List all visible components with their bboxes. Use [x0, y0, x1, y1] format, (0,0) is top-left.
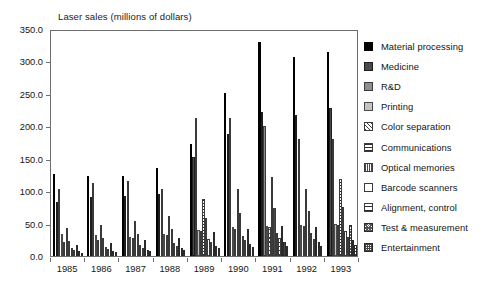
legend-item-test-measurement[interactable]: Test & measurement — [364, 218, 490, 238]
bar — [237, 189, 239, 256]
x-axis-tick-label-1987: 1987 — [125, 264, 146, 274]
bar — [142, 248, 144, 256]
legend-item-alignment-control[interactable]: Alignment, control — [364, 198, 490, 218]
bar — [127, 181, 129, 256]
bar-group-1985 — [53, 31, 83, 256]
y-axis: 0.050.0100.0150.0200.0250.0300.0350.0 — [0, 0, 50, 287]
bar — [107, 249, 109, 256]
bar — [232, 227, 234, 256]
legend-item-label: R&D — [381, 81, 401, 92]
legend-item-material-processing[interactable]: Material processing — [364, 36, 490, 56]
legend-item-label: Optical memories — [381, 162, 455, 173]
y-axis-tick-label: 350.0 — [20, 25, 43, 35]
bar — [313, 239, 315, 257]
bar — [147, 250, 149, 256]
bar-group-1986 — [87, 31, 117, 256]
bar — [276, 233, 278, 256]
bar — [78, 251, 80, 256]
legend-item-optical-memories[interactable]: Optical memories — [364, 157, 490, 177]
y-axis-tick-label: 250.0 — [20, 90, 43, 100]
legend-swatch-icon — [364, 163, 373, 172]
bar — [271, 177, 273, 256]
bar — [166, 235, 168, 256]
bar — [227, 134, 229, 256]
bar — [205, 218, 207, 256]
legend-swatch-icon — [364, 223, 373, 232]
bar — [124, 196, 126, 256]
bar — [310, 233, 312, 256]
legend: Material processingMedicineR&DPrintingCo… — [364, 36, 490, 258]
bar-group-1991 — [258, 31, 288, 256]
x-axis-tick-mark — [187, 258, 188, 262]
bar — [61, 234, 63, 256]
bar — [115, 252, 117, 256]
legend-item-barcode-scanners[interactable]: Barcode scanners — [364, 177, 490, 197]
bar — [53, 174, 55, 256]
bar — [320, 246, 322, 256]
legend-item-communications[interactable]: Communications — [364, 137, 490, 157]
bar — [202, 199, 204, 256]
bar-group-1993 — [327, 31, 357, 256]
bar — [298, 139, 300, 256]
bar — [71, 248, 73, 256]
bar — [244, 240, 246, 256]
bar — [315, 227, 317, 256]
bar — [112, 251, 114, 256]
bar — [249, 244, 251, 256]
legend-item-printing[interactable]: Printing — [364, 97, 490, 117]
bar — [110, 243, 112, 256]
bar — [293, 57, 295, 256]
x-axis-tick-mark — [290, 258, 291, 262]
legend-item-label: Color separation — [381, 121, 451, 132]
bar — [171, 229, 173, 256]
bar — [215, 246, 217, 256]
bar — [318, 242, 320, 256]
bar — [90, 197, 92, 256]
x-axis-tick-label-1989: 1989 — [194, 264, 215, 274]
bar — [181, 248, 183, 256]
bar — [137, 234, 139, 256]
bar — [339, 179, 341, 256]
bar — [242, 236, 244, 256]
legend-item-label: Entertainment — [381, 242, 440, 253]
x-axis-tick-mark — [358, 258, 359, 262]
bar — [303, 226, 305, 256]
bar — [349, 225, 351, 256]
bar-group-1989 — [190, 31, 220, 256]
bar — [92, 183, 94, 256]
y-axis-tick-label: 300.0 — [20, 57, 43, 67]
x-axis-tick-label-1988: 1988 — [159, 264, 180, 274]
bar — [102, 238, 104, 256]
bar — [161, 189, 163, 256]
bar — [300, 225, 302, 256]
legend-item-label: Material processing — [381, 41, 463, 52]
bar — [197, 230, 199, 256]
legend-item-r-d[interactable]: R&D — [364, 76, 490, 96]
bar — [63, 242, 65, 256]
bar — [344, 231, 346, 256]
x-axis-tick-label-1993: 1993 — [331, 264, 352, 274]
bar — [347, 237, 349, 256]
legend-item-medicine[interactable]: Medicine — [364, 56, 490, 76]
bar — [58, 189, 60, 256]
bar — [283, 242, 285, 256]
bar — [163, 234, 165, 256]
legend-item-entertainment[interactable]: Entertainment — [364, 238, 490, 258]
legend-swatch-icon — [364, 243, 373, 252]
bar — [305, 189, 307, 256]
legend-swatch-icon — [364, 183, 373, 192]
bar — [218, 248, 220, 256]
y-axis-tick-label: 0.0 — [30, 252, 43, 262]
bar — [266, 226, 268, 256]
x-axis-tick-label-1992: 1992 — [296, 264, 317, 274]
legend-item-color-separation[interactable]: Color separation — [364, 117, 490, 137]
bar — [183, 250, 185, 256]
y-axis-tick-label: 50.0 — [25, 220, 43, 230]
plot-area — [50, 30, 358, 257]
bar — [263, 126, 265, 256]
bar — [334, 224, 336, 256]
x-axis-tick-mark — [255, 258, 256, 262]
bar — [76, 245, 78, 256]
bar — [247, 229, 249, 256]
bar — [210, 242, 212, 256]
